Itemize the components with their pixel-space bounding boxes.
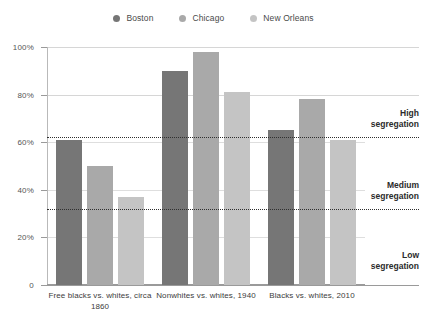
bar-group-free-blacks-1860 bbox=[47, 47, 153, 285]
zone-label-medium-line1: Medium bbox=[387, 180, 419, 190]
ytick-label-20: 20% bbox=[0, 233, 34, 242]
xlabel-blacks-2010: Blacks vs. whites, 2010 bbox=[259, 291, 365, 313]
zone-label-high: High segregation bbox=[333, 108, 419, 129]
legend-swatch-chicago bbox=[179, 15, 186, 22]
ytick-label-80: 80% bbox=[0, 90, 34, 99]
zone-label-low-line1: Low bbox=[402, 250, 419, 260]
chart-legend: Boston Chicago New Orleans bbox=[0, 13, 427, 23]
threshold-line-high bbox=[47, 137, 419, 138]
bar-boston-1940[interactable] bbox=[162, 71, 188, 285]
ytick-label-0: 0 bbox=[0, 281, 34, 290]
ytick-label-40: 40% bbox=[0, 185, 34, 194]
zone-label-medium-line2: segregation bbox=[371, 191, 419, 201]
bar-new-orleans-1940[interactable] bbox=[224, 92, 250, 285]
bar-boston-1860[interactable] bbox=[56, 140, 82, 285]
bar-chicago-1940[interactable] bbox=[193, 52, 219, 285]
zone-label-high-line2: segregation bbox=[371, 119, 419, 129]
zone-label-low: Low segregation bbox=[333, 250, 419, 271]
zone-label-medium: Medium segregation bbox=[333, 180, 419, 201]
zone-label-low-line2: segregation bbox=[371, 261, 419, 271]
legend-label-chicago: Chicago bbox=[192, 13, 224, 23]
legend-item-new-orleans[interactable]: New Orleans bbox=[250, 13, 313, 23]
legend-label-boston: Boston bbox=[126, 13, 153, 23]
ytick-label-100: 100% bbox=[0, 43, 34, 52]
legend-item-chicago[interactable]: Chicago bbox=[179, 13, 224, 23]
legend-swatch-boston bbox=[113, 15, 120, 22]
threshold-line-medium bbox=[47, 209, 419, 210]
xlabel-free-blacks-1860: Free blacks vs. whites, circa 1860 bbox=[47, 291, 153, 313]
bar-groups bbox=[47, 47, 365, 285]
bar-chicago-2010[interactable] bbox=[299, 99, 325, 285]
ytick-label-60: 60% bbox=[0, 138, 34, 147]
bar-group-nonwhites-1940 bbox=[153, 47, 259, 285]
bar-chicago-1860[interactable] bbox=[87, 166, 113, 285]
bar-boston-2010[interactable] bbox=[268, 130, 294, 285]
baseline-rule-right bbox=[47, 285, 419, 286]
zone-label-high-line1: High bbox=[400, 108, 419, 118]
legend-label-new-orleans: New Orleans bbox=[263, 13, 313, 23]
legend-swatch-new-orleans bbox=[250, 15, 257, 22]
xlabel-nonwhites-1940: Nonwhites vs. whites, 1940 bbox=[153, 291, 259, 313]
legend-item-boston[interactable]: Boston bbox=[113, 13, 153, 23]
segregation-bar-chart: Boston Chicago New Orleans 100% 80% 60% … bbox=[0, 0, 427, 327]
x-axis-labels: Free blacks vs. whites, circa 1860 Nonwh… bbox=[47, 291, 365, 313]
